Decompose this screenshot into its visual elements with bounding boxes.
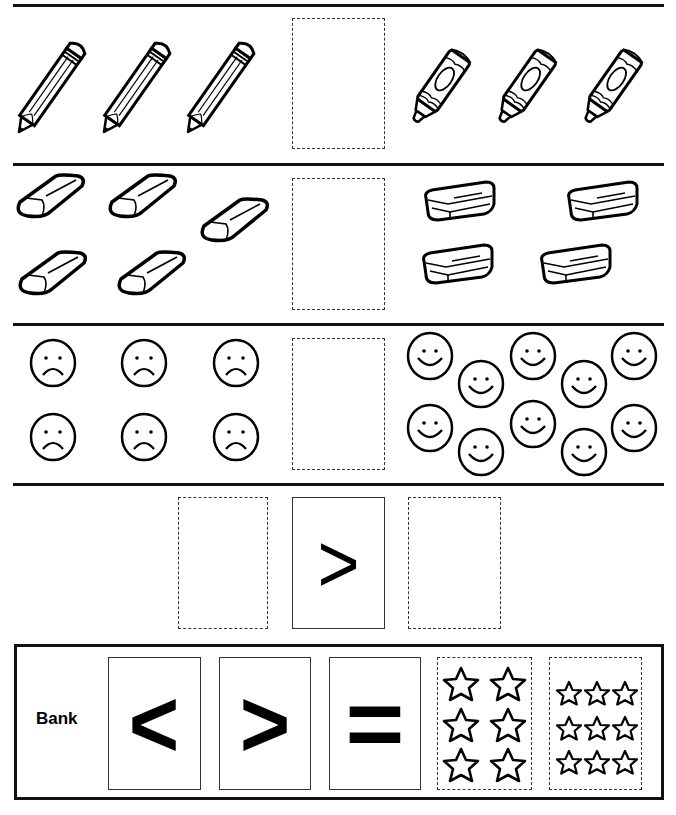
smiley-face-icon bbox=[408, 405, 452, 451]
smiley-face-icon bbox=[612, 405, 656, 451]
answer-box-row-3[interactable] bbox=[292, 338, 385, 470]
star-icon bbox=[557, 717, 581, 740]
smiley-face-icon bbox=[459, 429, 503, 475]
sad-face-icon bbox=[122, 340, 166, 386]
star-icon bbox=[491, 709, 525, 741]
star-icon bbox=[613, 717, 637, 740]
eraser-icon bbox=[110, 175, 175, 217]
star-icon bbox=[444, 749, 478, 781]
answer-box-row-2[interactable] bbox=[292, 178, 385, 310]
star-icon bbox=[585, 751, 609, 774]
pencil-icon bbox=[12, 40, 88, 137]
eraser-icon bbox=[18, 175, 83, 217]
star-icon bbox=[585, 682, 609, 705]
box-icon bbox=[426, 182, 494, 220]
answer-box-row-4-left[interactable] bbox=[178, 497, 268, 629]
smiley-face-icon bbox=[562, 429, 606, 475]
smiley-face-icon bbox=[511, 333, 555, 379]
star-icon bbox=[557, 682, 581, 705]
eraser-icon bbox=[202, 199, 267, 241]
eraser-icon bbox=[119, 252, 184, 294]
sad-face-icon bbox=[31, 340, 75, 386]
sad-face-icon bbox=[31, 414, 75, 460]
smiley-face-icon bbox=[408, 333, 452, 379]
crayon-icon bbox=[406, 47, 473, 128]
sad-face-icon bbox=[214, 414, 258, 460]
star-icon bbox=[444, 668, 478, 700]
sad-face-icon bbox=[214, 340, 258, 386]
star-icon bbox=[557, 751, 581, 774]
crayon-icon bbox=[578, 47, 645, 128]
box-icon bbox=[424, 245, 492, 283]
box-icon bbox=[542, 245, 610, 283]
star-icon bbox=[613, 682, 637, 705]
answer-box-row-4-right[interactable] bbox=[408, 497, 501, 629]
smiley-face-icon bbox=[459, 361, 503, 407]
smiley-face-icon bbox=[562, 361, 606, 407]
star-icon bbox=[585, 717, 609, 740]
bank-stars bbox=[0, 640, 676, 815]
smiley-face-icon bbox=[612, 333, 656, 379]
box-icon bbox=[569, 182, 637, 220]
pencil-icon bbox=[181, 40, 257, 137]
pencil-icon bbox=[97, 40, 173, 137]
crayon-icon bbox=[492, 47, 559, 128]
star-icon bbox=[491, 749, 525, 781]
star-icon bbox=[491, 668, 525, 700]
eraser-icon bbox=[20, 252, 85, 294]
symbol-card-greater-than: > bbox=[292, 497, 385, 629]
star-icon bbox=[613, 751, 637, 774]
smiley-face-icon bbox=[511, 401, 555, 447]
star-icon bbox=[444, 709, 478, 741]
answer-box-row-1[interactable] bbox=[292, 18, 385, 149]
greater-than-symbol: > bbox=[317, 522, 359, 605]
sad-face-icon bbox=[122, 414, 166, 460]
